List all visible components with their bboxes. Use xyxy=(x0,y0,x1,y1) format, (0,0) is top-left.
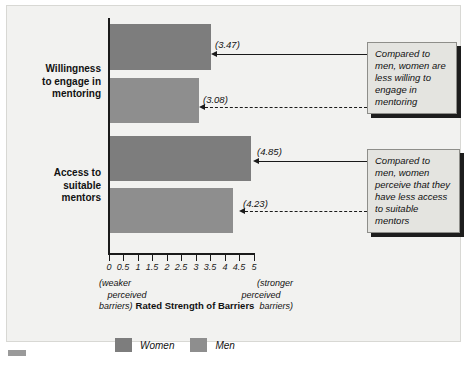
value-label-access-women: (4.85) xyxy=(257,146,282,157)
axis-note-stronger-line1: (stronger xyxy=(229,278,293,290)
value-label-access-men: (4.23) xyxy=(243,198,268,209)
category-label-willingness-line1: Willingness xyxy=(15,63,101,76)
category-label-willingness-line3: mentoring xyxy=(15,88,101,101)
arrow-line-willingness-women xyxy=(217,54,367,55)
x-tick-1.5 xyxy=(152,255,153,261)
x-tick-2.5 xyxy=(181,255,182,261)
value-label-willingness-men: (3.08) xyxy=(203,94,228,105)
x-tick-4 xyxy=(225,255,226,261)
x-tick-4.5 xyxy=(239,255,240,261)
bar-access-women xyxy=(110,136,251,181)
legend-label-men: Men xyxy=(215,340,234,351)
bar-willingness-women xyxy=(110,24,211,70)
axis-note-stronger-line3: barriers) xyxy=(229,301,293,313)
annotation-callout-access: Compared to men, women perceive that the… xyxy=(367,149,460,233)
arrow-line-access-women xyxy=(259,161,367,162)
x-tick-3.5 xyxy=(210,255,211,261)
axis-note-stronger-line2: perceived xyxy=(229,290,293,302)
x-tick-3 xyxy=(196,255,197,261)
arrow-head-access-women xyxy=(253,158,259,164)
x-tick-1 xyxy=(138,255,139,261)
category-label-access-line3: mentors xyxy=(15,192,101,205)
value-label-willingness-women: (3.47) xyxy=(215,39,240,50)
arrow-head-willingness-women xyxy=(211,51,217,57)
x-tick-0 xyxy=(109,255,110,261)
x-tick-0.5 xyxy=(123,255,124,261)
plot-area: 0 0.5 1 1.5 2 2.5 3 3.5 4 4.5 5 (3.47) (… xyxy=(7,6,462,343)
legend-item-women: Women xyxy=(115,338,174,352)
arrow-line-access-men xyxy=(245,211,367,212)
bar-access-men xyxy=(110,188,233,233)
category-label-access-line2: suitable xyxy=(15,180,101,193)
chart-legend: Women Men xyxy=(115,338,235,352)
legend-swatch-men-icon xyxy=(190,338,207,352)
bar-willingness-men xyxy=(110,78,199,123)
axis-note-weaker-line1: (weaker xyxy=(99,278,155,290)
category-label-willingness-line2: to engage in xyxy=(15,76,101,89)
chart-figure-panel: 0 0.5 1 1.5 2 2.5 3 3.5 4 4.5 5 (3.47) (… xyxy=(6,5,461,342)
x-tick-5 xyxy=(254,255,255,261)
axis-note-stronger: (stronger perceived barriers) xyxy=(229,278,293,313)
category-label-access-line1: Access to xyxy=(15,167,101,180)
x-tick-2 xyxy=(167,255,168,261)
arrow-head-access-men xyxy=(239,208,245,214)
arrow-line-willingness-men xyxy=(205,107,367,108)
category-label-willingness: Willingness to engage in mentoring xyxy=(15,63,101,101)
legend-label-women: Women xyxy=(140,340,174,351)
annotation-callout-willingness: Compared to men, women are less willing … xyxy=(367,42,457,114)
legend-swatch-women-icon xyxy=(115,338,132,352)
x-tick-label-5: 5 xyxy=(237,262,271,272)
category-label-access: Access to suitable mentors xyxy=(15,167,101,205)
legend-item-men: Men xyxy=(190,338,234,352)
arrow-head-willingness-men xyxy=(199,104,205,110)
page-corner-mark xyxy=(8,350,26,356)
